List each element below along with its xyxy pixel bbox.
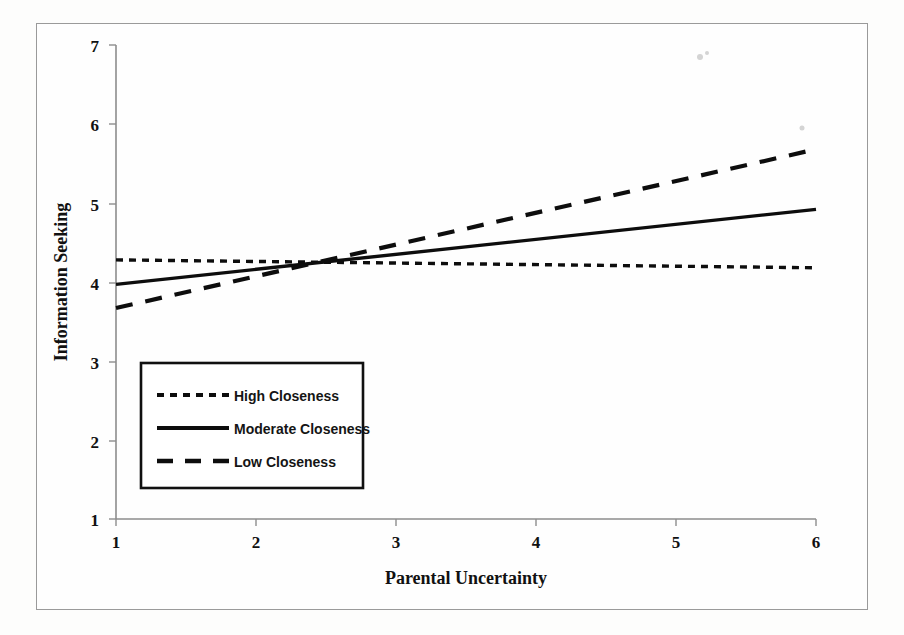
x-tick-label-5: 5 <box>672 533 681 552</box>
y-tick-label-5: 5 <box>91 196 100 215</box>
x-axis: 1 2 3 4 5 6 Parental Uncertainty <box>112 519 821 588</box>
chart-frame: 7 6 5 4 3 2 1 Information Seeking 1 2 <box>36 23 868 610</box>
y-tick-label-7: 7 <box>91 37 100 56</box>
series-line-high-closeness <box>116 260 816 268</box>
y-tick-label-3: 3 <box>91 354 100 373</box>
y-tick-label-1: 1 <box>91 511 100 530</box>
y-tick-label-2: 2 <box>91 433 100 452</box>
y-tick-label-4: 4 <box>91 275 100 294</box>
y-axis-title: Information Seeking <box>51 203 71 362</box>
x-axis-title: Parental Uncertainty <box>385 568 547 588</box>
series-line-low-closeness <box>116 149 816 308</box>
chart-legend: High Closeness Moderate Closeness Low Cl… <box>141 363 370 488</box>
series-line-moderate-closeness <box>116 209 816 284</box>
figure-root: 7 6 5 4 3 2 1 Information Seeking 1 2 <box>0 0 904 635</box>
x-tick-label-3: 3 <box>392 533 401 552</box>
y-axis: 7 6 5 4 3 2 1 Information Seeking <box>51 37 116 530</box>
x-tick-label-1: 1 <box>112 533 121 552</box>
x-tick-label-6: 6 <box>812 533 821 552</box>
x-tick-label-4: 4 <box>532 533 541 552</box>
scan-speck <box>697 54 703 60</box>
y-tick-label-6: 6 <box>91 116 100 135</box>
x-tick-label-2: 2 <box>252 533 261 552</box>
legend-label-low-closeness: Low Closeness <box>234 454 336 470</box>
scan-speck <box>800 126 805 131</box>
legend-label-high-closeness: High Closeness <box>234 388 339 404</box>
legend-label-moderate-closeness: Moderate Closeness <box>234 421 370 437</box>
series-group <box>116 149 816 308</box>
scan-speck <box>705 51 709 55</box>
chart-plot-area: 7 6 5 4 3 2 1 Information Seeking 1 2 <box>37 24 867 609</box>
